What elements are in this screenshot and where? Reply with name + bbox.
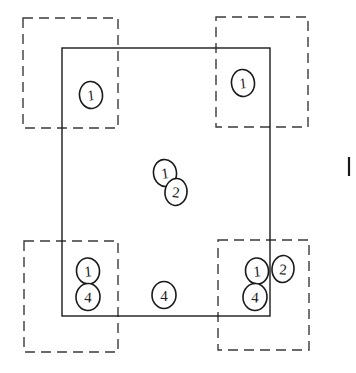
- numbered-markers-layer: 1112144124: [75, 68, 295, 311]
- marker-bottom-left-4: 4: [75, 283, 100, 311]
- marker-bottom-right-2: 2: [271, 255, 295, 283]
- marker-bottom-right-4-outline: [242, 283, 267, 311]
- top-left-dashed-box: [23, 18, 118, 128]
- marker-top-left-1: 1: [78, 80, 104, 109]
- bottom-left-dashed-box: [24, 241, 118, 352]
- marker-top-right-1: 1: [230, 68, 256, 97]
- marker-bottom-left-1-outline: [75, 257, 100, 285]
- marker-bottom-center-4: 4: [152, 282, 176, 309]
- marker-bottom-right-4: 4: [242, 283, 267, 311]
- marker-bottom-left-4-outline: [75, 283, 100, 311]
- top-right-dashed-box: [216, 17, 308, 127]
- marker-bottom-right-1-outline: [244, 257, 269, 285]
- marker-bottom-center-4-outline: [152, 282, 176, 309]
- marker-bottom-left-1: 1: [75, 257, 100, 285]
- marker-bottom-right-2-outline: [271, 255, 295, 283]
- marker-top-right-1-outline: [230, 68, 256, 97]
- marker-top-left-1-outline: [78, 80, 104, 109]
- region-diagram: 1112144124: [0, 0, 356, 373]
- marker-bottom-right-1: 1: [244, 257, 269, 285]
- diagram-canvas: 1112144124: [0, 0, 356, 373]
